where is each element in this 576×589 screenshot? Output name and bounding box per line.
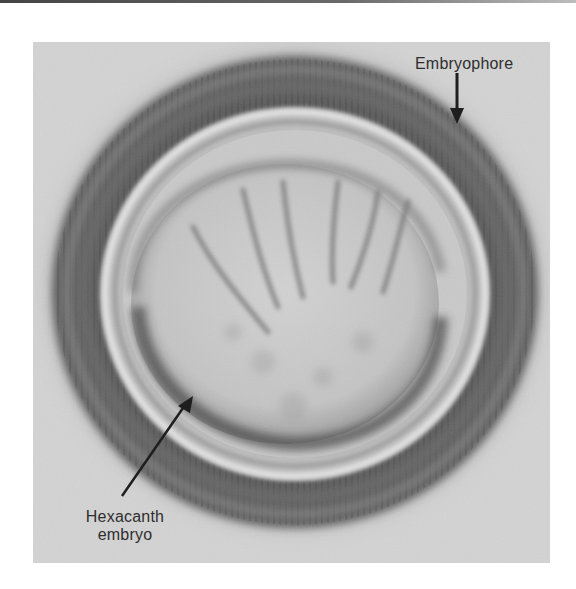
hexacanth-label-line1: Hexacanth [83, 508, 167, 526]
embryophore-label: Embryophore [415, 55, 513, 73]
hexacanth-embryo-label: Hexacanth embryo [83, 508, 167, 544]
egg-micrograph-image [33, 42, 550, 563]
top-rule-divider [0, 0, 576, 3]
hexacanth-label-line2: embryo [83, 526, 167, 544]
micrograph-figure: Embryophore Hexacanth embryo [33, 42, 550, 563]
